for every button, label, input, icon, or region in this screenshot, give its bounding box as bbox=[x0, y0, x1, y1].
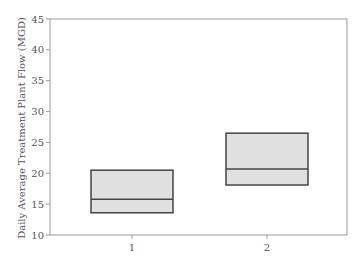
x-tick-label: 1 bbox=[129, 242, 135, 253]
box-2 bbox=[226, 133, 308, 185]
x-tick-label: 2 bbox=[264, 242, 270, 253]
x-axis: 12 bbox=[129, 235, 270, 253]
y-tick-label: 15 bbox=[31, 199, 44, 210]
boxes bbox=[91, 133, 308, 213]
y-tick-label: 45 bbox=[31, 14, 44, 25]
box-iqr bbox=[226, 133, 308, 185]
y-tick-label: 35 bbox=[31, 75, 44, 86]
y-axis-title: Daily Average Treatment Plant Flow (MGD) bbox=[16, 17, 27, 239]
y-tick-label: 10 bbox=[31, 230, 44, 241]
y-tick-label: 30 bbox=[31, 106, 44, 117]
y-tick-label: 20 bbox=[31, 168, 44, 179]
y-axis: 1015202530354045 bbox=[31, 14, 50, 241]
y-tick-label: 25 bbox=[31, 137, 44, 148]
y-tick-label: 40 bbox=[31, 44, 44, 55]
box-plot-chart: 1015202530354045 12 Daily Average Treatm… bbox=[0, 0, 364, 263]
box-iqr bbox=[91, 170, 173, 213]
box-1 bbox=[91, 170, 173, 213]
